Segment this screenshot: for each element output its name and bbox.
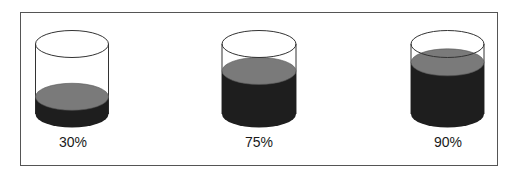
cylinder-1-rim bbox=[36, 31, 109, 58]
cylinder-2-rim bbox=[222, 31, 296, 58]
cylinder-2-label: 75% bbox=[219, 134, 299, 150]
cylinder-2-liquid-surface bbox=[222, 57, 296, 84]
cylinders-graphic bbox=[0, 0, 517, 180]
cylinder-1-label: 30% bbox=[33, 134, 113, 150]
cylinder-3-label: 90% bbox=[408, 134, 488, 150]
cylinder-1-liquid-surface bbox=[36, 83, 109, 110]
cylinder-3-liquid-surface bbox=[411, 49, 484, 76]
